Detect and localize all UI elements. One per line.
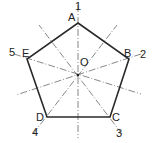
axis-number-3: 3 [116, 127, 122, 139]
center-lines [14, 5, 141, 138]
vertex-label-a: A [68, 11, 76, 23]
center-point [77, 74, 80, 77]
vertex-label-e: E [22, 47, 29, 59]
axis-number-5: 5 [9, 46, 15, 58]
center-label: O [80, 56, 89, 68]
vertex-label-c: C [112, 111, 120, 123]
vertex-label-d: D [36, 111, 44, 123]
vertex-label-b: B [124, 47, 131, 59]
pentagon-construction-diagram: O A 1 B 2 C 3 D 4 E 5 [0, 0, 160, 143]
axis-number-4: 4 [32, 126, 38, 138]
axis-number-2: 2 [140, 48, 146, 60]
axis-number-1: 1 [75, 0, 81, 12]
